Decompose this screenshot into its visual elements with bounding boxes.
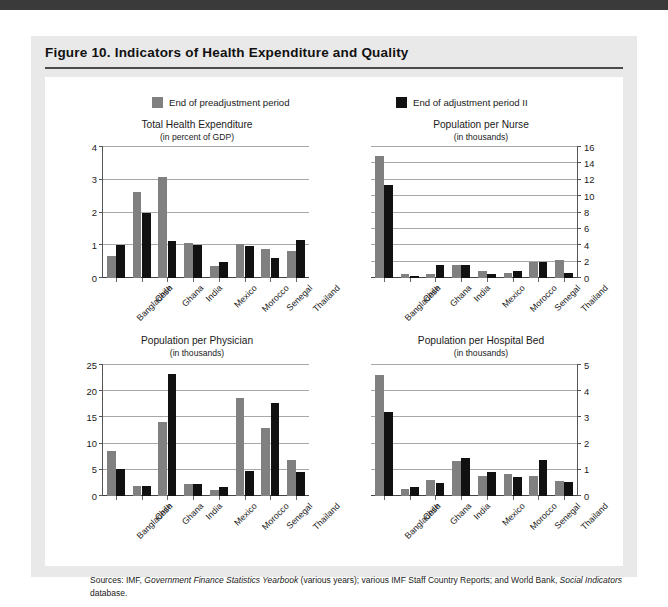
y-axis-tick-label: 1: [92, 241, 97, 250]
figure-panel: Figure 10. Indicators of Health Expendit…: [31, 36, 637, 577]
x-axis-tick-mark: [384, 278, 385, 282]
y-axis-tick-label: 2: [584, 439, 589, 448]
top-strip: [0, 0, 668, 10]
bar-group: [426, 365, 444, 496]
y-axis-tick-label: 16: [584, 143, 594, 152]
y-axis-tick-label: 10: [87, 439, 97, 448]
y-axis-tick-label: 14: [584, 159, 594, 168]
bar: [210, 266, 219, 278]
x-axis-tick-mark: [410, 496, 411, 500]
chart-population-per-hospital-bed: Population per Hospital Bed (in thousand…: [339, 335, 623, 557]
y-axis-line: [577, 365, 578, 496]
bar: [529, 262, 538, 278]
source-middle: (various years); various IMF Staff Count…: [298, 575, 559, 585]
bar-group: [452, 365, 470, 496]
x-axis-tick-mark: [142, 496, 143, 500]
bar: [487, 472, 496, 496]
source-prefix: Sources: IMF,: [90, 575, 144, 585]
x-axis-tick-mark: [193, 496, 194, 500]
bar: [245, 246, 254, 278]
x-axis-category-label: India: [472, 283, 493, 304]
bar-group: [287, 365, 305, 496]
y-axis-line: [577, 147, 578, 278]
bar: [539, 460, 548, 496]
bar-group: [158, 365, 176, 496]
bar: [487, 274, 496, 278]
bar: [410, 276, 419, 278]
bar: [261, 249, 270, 278]
source-note: Sources: IMF, Government Finance Statist…: [90, 574, 630, 600]
y-axis-tick-label: 0: [92, 492, 97, 501]
y-axis-tick-label: 10: [584, 192, 594, 201]
x-axis-category-label: Thailand: [579, 283, 610, 314]
bar: [133, 486, 142, 496]
x-axis-category-label: Morocco: [528, 501, 559, 532]
x-axis-tick-mark: [245, 496, 246, 500]
y-axis-tick-label: 0: [584, 492, 589, 501]
bar: [142, 486, 151, 496]
bar-group: [452, 147, 470, 278]
bar-group: [184, 147, 202, 278]
x-axis-category-label: India: [472, 501, 493, 522]
bar: [271, 403, 280, 496]
x-axis-tick-mark: [270, 496, 271, 500]
bar: [504, 273, 513, 278]
bar: [219, 487, 228, 496]
legend-item-adjustment: End of adjustment period II: [396, 97, 528, 108]
legend-label-adjustment: End of adjustment period II: [413, 97, 528, 108]
x-axis-category-label: India: [204, 501, 225, 522]
chart-population-per-nurse: Population per Nurse (in thousands) 0246…: [339, 119, 623, 337]
plot-area: 01234BangladeshChileGhanaIndiaMexicoMoro…: [103, 147, 309, 278]
x-axis-tick-mark: [564, 278, 565, 282]
y-axis-tick-label: 25: [87, 361, 97, 370]
bar: [193, 245, 202, 278]
bar: [564, 482, 573, 496]
bar: [384, 412, 393, 496]
bar: [410, 487, 419, 496]
x-axis-tick-mark: [245, 278, 246, 282]
bar: [401, 274, 410, 278]
x-axis-tick-mark: [167, 278, 168, 282]
bar-group: [504, 365, 522, 496]
x-axis-category-label: Ghana: [180, 501, 206, 527]
x-axis-tick-mark: [270, 278, 271, 282]
bar: [107, 256, 116, 278]
bar-group: [529, 147, 547, 278]
y-axis-tick-label: 2: [92, 208, 97, 217]
x-axis-category-label: Mexico: [232, 283, 259, 310]
bar: [287, 251, 296, 278]
x-axis-tick-mark: [410, 278, 411, 282]
bar: [236, 244, 245, 278]
x-axis-tick-mark: [538, 496, 539, 500]
bar: [133, 192, 142, 278]
bar: [555, 481, 564, 496]
bar: [513, 271, 522, 278]
bar-group: [184, 365, 202, 496]
bar: [287, 460, 296, 496]
y-axis-line: [102, 147, 103, 278]
x-axis-tick-mark: [461, 278, 462, 282]
bar: [539, 262, 548, 278]
bar-group: [426, 147, 444, 278]
x-axis-category-label: Morocco: [260, 283, 291, 314]
bar: [142, 213, 151, 279]
y-axis-tick-label: 8: [584, 208, 589, 217]
y-axis-tick-label: 1: [584, 465, 589, 474]
y-axis-tick-label: 4: [584, 241, 589, 250]
x-axis-category-label: Ghana: [448, 501, 474, 527]
plot-area: 012345BangladeshChileGhanaIndiaMexicoMor…: [371, 365, 577, 496]
chart-title: Population per Physician: [55, 335, 339, 346]
bar: [513, 477, 522, 496]
bar-group: [287, 147, 305, 278]
bar: [452, 265, 461, 278]
bar: [436, 265, 445, 278]
source-suffix: database.: [90, 588, 127, 598]
bar: [168, 374, 177, 496]
y-axis-tick-label: 0: [92, 274, 97, 283]
bar: [236, 398, 245, 496]
bar: [401, 489, 410, 496]
bar: [436, 483, 445, 496]
bar: [478, 271, 487, 278]
bar: [452, 461, 461, 496]
y-axis-tick-label: 4: [584, 387, 589, 396]
